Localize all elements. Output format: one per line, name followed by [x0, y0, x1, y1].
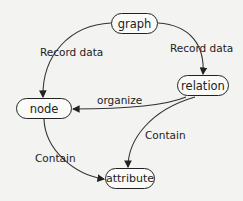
edge-label-contain-left: Contain — [35, 152, 76, 164]
node-node: node — [16, 98, 72, 119]
edge-graph-node — [43, 23, 111, 97]
edge-label-organize: organize — [97, 94, 142, 106]
node-relation: relation — [177, 75, 229, 96]
edge-label-record-data-right: Record data — [170, 42, 233, 54]
edge-node-attribute — [44, 119, 104, 179]
node-graph: graph — [111, 13, 158, 34]
edge-label-record-data-left: Record data — [40, 46, 103, 58]
node-attribute: attribute — [105, 168, 155, 189]
edge-label-contain-right: Contain — [145, 129, 186, 141]
